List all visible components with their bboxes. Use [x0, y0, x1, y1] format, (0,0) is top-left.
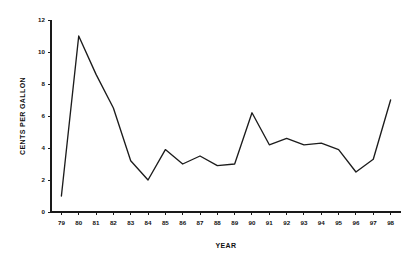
- x-tick-label: 81: [93, 219, 100, 226]
- x-tick-label: 89: [231, 219, 238, 226]
- x-tick-label: 85: [162, 219, 169, 226]
- y-axis-group: 024681012 CENTS PER GALLON: [19, 16, 51, 215]
- x-tick-label: 80: [75, 219, 82, 226]
- x-axis-title: YEAR: [215, 242, 236, 249]
- y-tick-label: 10: [38, 48, 45, 55]
- y-tick-label: 6: [42, 112, 46, 119]
- x-tick-label: 79: [58, 219, 65, 226]
- x-tick-label: 90: [249, 219, 256, 226]
- x-tick-label: 88: [214, 219, 221, 226]
- x-axis-group: 7980818283848586878889909192939495969798…: [51, 212, 401, 249]
- y-axis-title: CENTS PER GALLON: [19, 77, 26, 155]
- x-tick-label: 86: [179, 219, 186, 226]
- y-axis-ticks: 024681012: [38, 16, 51, 215]
- y-tick-label: 4: [42, 144, 46, 151]
- x-tick-label: 83: [127, 219, 134, 226]
- x-tick-label: 84: [145, 219, 152, 226]
- x-tick-label: 97: [370, 219, 377, 226]
- chart-container: 024681012 CENTS PER GALLON 7980818283848…: [0, 0, 420, 265]
- line-chart: 024681012 CENTS PER GALLON 7980818283848…: [0, 0, 420, 265]
- y-tick-label: 0: [42, 208, 46, 215]
- data-series-line: [61, 36, 390, 196]
- y-tick-label: 2: [42, 176, 46, 183]
- x-tick-label: 94: [318, 219, 325, 226]
- x-tick-label: 96: [353, 219, 360, 226]
- y-tick-label: 8: [42, 80, 46, 87]
- x-tick-label: 82: [110, 219, 117, 226]
- x-tick-label: 92: [283, 219, 290, 226]
- x-tick-label: 98: [387, 219, 394, 226]
- x-tick-label: 91: [266, 219, 273, 226]
- x-tick-label: 95: [335, 219, 342, 226]
- x-axis-ticks: 7980818283848586878889909192939495969798: [58, 212, 395, 226]
- x-tick-label: 87: [197, 219, 204, 226]
- y-tick-label: 12: [38, 16, 45, 23]
- x-tick-label: 93: [301, 219, 308, 226]
